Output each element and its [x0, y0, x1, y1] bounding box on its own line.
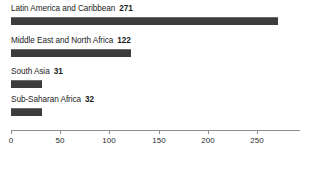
bar-label: South Asia31 [11, 67, 63, 77]
x-axis-tick [109, 130, 110, 134]
bar-rect [11, 49, 131, 57]
bar-value-label: 122 [117, 36, 131, 45]
x-axis-tick [208, 130, 209, 134]
x-axis-tick-label: 250 [250, 136, 263, 145]
x-axis-tick-label: 0 [9, 136, 13, 145]
plot-area: Latin America and Caribbean271 Middle Ea… [0, 0, 310, 132]
bar-rect [11, 80, 42, 88]
bar-rect [11, 108, 42, 116]
bar-rect [11, 17, 278, 25]
bar-chart: Latin America and Caribbean271 Middle Ea… [0, 0, 310, 176]
x-axis-tick [159, 130, 160, 134]
bar-value-label: 31 [54, 67, 63, 76]
x-axis-tick-label: 100 [102, 136, 115, 145]
x-axis-tick-label: 200 [201, 136, 214, 145]
bar-label: Sub-Saharan Africa32 [11, 95, 94, 105]
x-axis-tick-label: 50 [56, 136, 65, 145]
bar-category-label: Middle East and North Africa [11, 36, 113, 45]
x-axis-tick-label: 150 [152, 136, 165, 145]
x-axis-tick [257, 130, 258, 134]
x-axis-tick [11, 130, 12, 134]
bar-category-label: Sub-Saharan Africa [11, 95, 81, 104]
x-axis-tick [60, 130, 61, 134]
bar-category-label: Latin America and Caribbean [11, 4, 115, 13]
bar-value-label: 32 [85, 95, 94, 104]
bar-label: Latin America and Caribbean271 [11, 4, 133, 14]
bar-value-label: 271 [119, 4, 133, 13]
bar-category-label: South Asia [11, 67, 50, 76]
bar-label: Middle East and North Africa122 [11, 36, 131, 46]
